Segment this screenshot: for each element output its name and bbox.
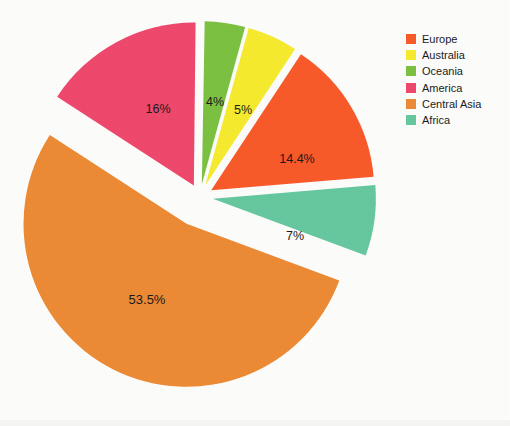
pie-chart: 4%5%14.4%7%53.5%16% EuropeAustraliaOcean… bbox=[0, 0, 510, 426]
legend-swatch-icon bbox=[406, 34, 416, 44]
legend-item-oceania[interactable]: Oceania bbox=[406, 63, 506, 79]
chart-legend: EuropeAustraliaOceaniaAmericaCentral Asi… bbox=[406, 31, 506, 128]
legend-item-label: America bbox=[422, 82, 462, 94]
pie-slice-label-oceania: 4% bbox=[206, 95, 224, 109]
legend-item-central-asia[interactable]: Central Asia bbox=[406, 96, 506, 112]
legend-item-label: Europe bbox=[422, 33, 457, 45]
pie-slice-label-africa: 7% bbox=[286, 229, 304, 243]
pie-slices-group bbox=[24, 21, 376, 387]
legend-swatch-icon bbox=[406, 50, 416, 60]
legend-swatch-icon bbox=[406, 99, 416, 109]
legend-swatch-icon bbox=[406, 115, 416, 125]
legend-item-label: Australia bbox=[422, 49, 465, 61]
legend-item-america[interactable]: America bbox=[406, 80, 506, 96]
legend-item-label: Oceania bbox=[422, 65, 463, 77]
legend-swatch-icon bbox=[406, 66, 416, 76]
legend-item-africa[interactable]: Africa bbox=[406, 112, 506, 128]
legend-item-europe[interactable]: Europe bbox=[406, 31, 506, 47]
legend-item-label: Africa bbox=[422, 114, 450, 126]
legend-swatch-icon bbox=[406, 83, 416, 93]
pie-slice-label-central-asia: 53.5% bbox=[129, 292, 166, 307]
legend-item-label: Central Asia bbox=[422, 98, 481, 110]
legend-item-australia[interactable]: Australia bbox=[406, 47, 506, 63]
pie-slice-label-europe: 14.4% bbox=[279, 152, 314, 166]
pie-slice-label-america: 16% bbox=[145, 102, 170, 116]
pie-slice-label-australia: 5% bbox=[234, 103, 252, 117]
page-bottom-edge bbox=[0, 420, 510, 426]
